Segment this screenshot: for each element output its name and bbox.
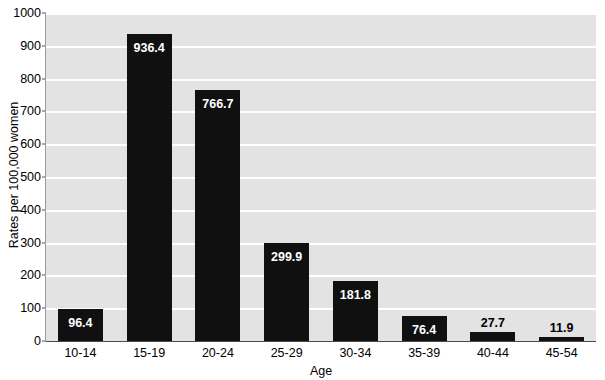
- y-tick-label: 600: [0, 137, 41, 151]
- bar-group[interactable]: 936.4: [127, 13, 172, 341]
- bar-group[interactable]: 27.7: [470, 13, 515, 341]
- y-tick-label: 800: [0, 72, 41, 86]
- cropped-title-remnant: [340, 0, 605, 3]
- y-tick-label: 900: [0, 39, 41, 53]
- y-tick-label: 500: [0, 170, 41, 184]
- bar-value-label: 27.7: [470, 316, 515, 330]
- bar-chart-figure: Rates per 100,000 women 1000900800700600…: [0, 0, 605, 380]
- bar[interactable]: [470, 332, 515, 341]
- bar-group[interactable]: 11.9: [539, 13, 584, 341]
- x-tick-label: 40-44: [459, 346, 528, 360]
- x-tick-label: 20-24: [184, 346, 253, 360]
- y-tick-label: 200: [0, 268, 41, 282]
- bar-value-label: 76.4: [402, 323, 447, 337]
- plot-area: 96.4936.4766.7299.9181.876.427.711.9: [46, 13, 596, 341]
- x-axis-baseline: [46, 341, 596, 342]
- x-tick-label: 30-34: [321, 346, 390, 360]
- bar[interactable]: [195, 90, 240, 341]
- x-tick-label: 10-14: [46, 346, 115, 360]
- bar-group[interactable]: 299.9: [264, 13, 309, 341]
- bar-value-label: 181.8: [333, 288, 378, 302]
- y-tick-label: 100: [0, 301, 41, 315]
- x-tick-label: 25-29: [252, 346, 321, 360]
- bar-group[interactable]: 766.7: [195, 13, 240, 341]
- bar-value-label: 11.9: [539, 321, 584, 335]
- x-tick-label: 35-39: [390, 346, 459, 360]
- y-tick-label: 0: [0, 334, 41, 348]
- y-tick-label: 700: [0, 104, 41, 118]
- bar-group[interactable]: 76.4: [402, 13, 447, 341]
- x-axis-tick-labels: 10-1415-1920-2425-2930-3435-3940-4445-54: [46, 346, 596, 364]
- y-axis-tick-labels: 10009008007006005004003002001000: [0, 0, 41, 380]
- bar[interactable]: [127, 34, 172, 341]
- bar-value-label: 936.4: [127, 41, 172, 55]
- bars-layer: 96.4936.4766.7299.9181.876.427.711.9: [46, 13, 596, 341]
- x-tick-label: 15-19: [115, 346, 184, 360]
- bar-value-label: 766.7: [195, 97, 240, 111]
- bar-group[interactable]: 96.4: [58, 13, 103, 341]
- x-tick-label: 45-54: [527, 346, 596, 360]
- y-tick-label: 300: [0, 236, 41, 250]
- bar-group[interactable]: 181.8: [333, 13, 378, 341]
- bar-value-label: 299.9: [264, 250, 309, 264]
- y-tick-label: 1000: [0, 6, 41, 20]
- y-tick-label: 400: [0, 203, 41, 217]
- x-axis-title: Age: [46, 364, 596, 378]
- bar-value-label: 96.4: [58, 316, 103, 330]
